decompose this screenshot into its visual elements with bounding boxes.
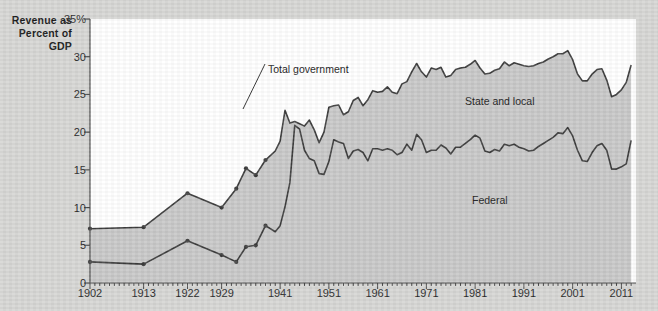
y-tick-label-35pct: 35% [44, 13, 86, 25]
state-and-local-label: State and local [465, 95, 534, 107]
federal-label: Federal [472, 194, 508, 206]
x-tick-label-1991: 1991 [512, 287, 536, 299]
total-government-label: Total government [268, 63, 349, 75]
x-tick-label-1922: 1922 [175, 287, 199, 299]
x-tick-label-2011: 2011 [610, 287, 634, 299]
y-axis-tick-labels: 05101520253035% [44, 0, 86, 311]
y-tick-label-15: 15 [44, 164, 86, 176]
x-tick-label-2001: 2001 [560, 287, 584, 299]
x-tick-label-1913: 1913 [131, 287, 155, 299]
plot-area [0, 0, 658, 311]
y-tick-label-25: 25 [44, 88, 86, 100]
x-tick-label-1941: 1941 [268, 287, 292, 299]
y-tick-label-30: 30 [44, 51, 86, 63]
y-tick-label-10: 10 [44, 202, 86, 214]
x-tick-label-1929: 1929 [209, 287, 233, 299]
revenue-as-percent-of-gdp-chart: Revenue as Percent of GDP 05101520253035… [0, 0, 658, 311]
x-tick-label-1951: 1951 [317, 287, 341, 299]
x-tick-label-1981: 1981 [463, 287, 487, 299]
y-tick-label-20: 20 [44, 126, 86, 138]
y-tick-label-5: 5 [44, 239, 86, 251]
x-axis-ticks [90, 283, 631, 289]
x-tick-label-1902: 1902 [78, 287, 102, 299]
x-tick-label-1971: 1971 [414, 287, 438, 299]
x-tick-label-1961: 1961 [365, 287, 389, 299]
